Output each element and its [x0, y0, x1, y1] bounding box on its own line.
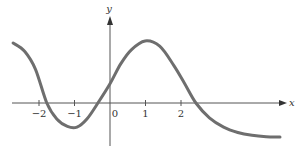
x-axis-arrow-icon: [279, 100, 287, 106]
x-tick-label: −1: [67, 108, 82, 119]
x-tick-label: 2: [178, 108, 184, 119]
x-axis-label: x: [289, 97, 295, 108]
function-curve: [13, 41, 280, 137]
axes: [12, 16, 287, 146]
y-axis-arrow-icon: [107, 16, 113, 25]
x-tick-label: 0: [112, 108, 118, 119]
function-graph: −2−1012 x y: [0, 0, 296, 152]
x-tick-label: 1: [142, 108, 148, 119]
x-tick-label: −2: [32, 108, 47, 119]
y-axis-label: y: [105, 3, 112, 14]
